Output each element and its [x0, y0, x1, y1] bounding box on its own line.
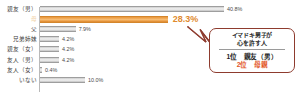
bar-value-label: 7.9% — [79, 26, 91, 32]
category-label: 親友（男） — [0, 6, 37, 12]
category-label: 父 — [0, 26, 37, 32]
bar-container: 7.9% — [40, 26, 91, 32]
category-label: 友人（男） — [0, 57, 37, 63]
bar-container: 4.2% — [40, 57, 74, 63]
category-label: いない — [0, 77, 37, 83]
category-label: 母 — [0, 16, 37, 22]
bar — [40, 77, 85, 83]
callout-title-line1: イマドキ男子が — [212, 32, 292, 40]
bar-row: いない10.0% — [0, 75, 299, 85]
bar-container: 40.8% — [40, 6, 242, 12]
bar-container: 4.2% — [40, 46, 74, 52]
bar-row: 母28.3% — [0, 14, 299, 24]
bar-value-label: 0.4% — [45, 67, 57, 73]
bar — [40, 36, 59, 42]
bar-value-label: 40.8% — [227, 6, 242, 12]
category-label: 親友（女） — [0, 46, 37, 52]
bar-container: 0.4% — [40, 67, 57, 73]
bar-highlight — [40, 16, 168, 23]
bar-value-label: 28.3% — [173, 15, 199, 24]
bar-row: 親友（男）40.8% — [0, 4, 299, 14]
bar-value-label: 4.2% — [62, 46, 74, 52]
callout-divider — [219, 49, 285, 50]
bar-value-label: 4.2% — [62, 36, 74, 42]
bar-container: 28.3% — [40, 16, 198, 22]
callout-rank-2: 2位 母親 — [212, 61, 292, 69]
callout-balloon: イマドキ男子が 心を許す人 1位 親友（男） 2位 母親 — [209, 28, 295, 73]
callout-title-line2: 心を許す人 — [212, 40, 292, 48]
callout-rank-1: 1位 親友（男） — [212, 53, 292, 61]
bar-container: 4.2% — [40, 36, 74, 42]
bar — [40, 46, 59, 52]
bar-container: 10.0% — [40, 77, 103, 83]
bar — [40, 67, 42, 73]
category-label: 友人（女） — [0, 67, 37, 73]
bar — [40, 57, 59, 63]
bar — [40, 26, 76, 32]
bar — [40, 6, 224, 12]
category-label: 兄弟姉妹 — [0, 36, 37, 42]
bar-value-label: 10.0% — [88, 77, 103, 83]
bar-chart-figure: 親友（男）40.8%母28.3%父7.9%兄弟姉妹4.2%親友（女）4.2%友人… — [0, 0, 299, 95]
bar-value-label: 4.2% — [62, 57, 74, 63]
